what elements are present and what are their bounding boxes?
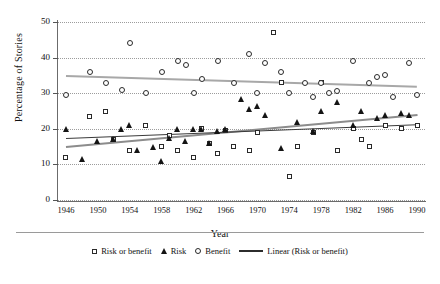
- data-point-triangle: [94, 138, 100, 144]
- data-point-square: [103, 109, 108, 114]
- data-point-circle: [382, 72, 388, 78]
- y-tick-label: 20: [41, 124, 50, 133]
- data-point-square: [127, 148, 132, 153]
- data-point-triangle: [190, 126, 196, 132]
- data-point-circle: [246, 51, 252, 57]
- data-point-triangle: [254, 103, 260, 109]
- data-point-triangle: [150, 144, 156, 150]
- data-point-triangle: [374, 115, 380, 121]
- data-point-triangle: [118, 126, 124, 132]
- data-point-square: [159, 144, 164, 149]
- gridline: [58, 164, 425, 165]
- plot-area: [58, 22, 425, 200]
- data-point-circle: [310, 94, 316, 100]
- legend-label: Risk or benefit: [101, 246, 152, 256]
- data-point-circle: [414, 92, 420, 98]
- data-point-square: [63, 155, 68, 160]
- data-point-square: [287, 174, 292, 179]
- data-point-circle: [175, 58, 181, 64]
- y-tick-label: 0: [46, 195, 51, 204]
- chart-figure: Percentage of Stories Year 01020304050 1…: [0, 0, 440, 284]
- data-point-square: [143, 123, 148, 128]
- data-point-triangle: [262, 112, 268, 118]
- gridline: [58, 200, 425, 201]
- data-point-square: [383, 123, 388, 128]
- data-point-square: [359, 137, 364, 142]
- data-point-circle: [406, 60, 412, 66]
- data-point-square: [271, 30, 276, 35]
- data-point-triangle: [222, 126, 228, 132]
- data-point-circle: [199, 76, 205, 82]
- legend-label: Risk: [171, 246, 187, 256]
- gridline: [58, 22, 425, 23]
- chart-legend: Risk or benefitRiskBenefitLinear (Risk o…: [0, 246, 440, 256]
- data-point-triangle: [238, 96, 244, 102]
- legend-item: Risk or benefit: [92, 246, 152, 256]
- data-point-circle: [254, 90, 260, 96]
- data-point-circle: [302, 80, 308, 86]
- data-point-triangle: [350, 122, 356, 128]
- y-tick-label: 10: [41, 159, 50, 168]
- legend-divider: [16, 232, 424, 233]
- data-point-circle: [63, 92, 69, 98]
- data-point-circle: [286, 90, 292, 96]
- data-point-square: [415, 123, 420, 128]
- data-point-square: [191, 155, 196, 160]
- data-point-circle: [326, 90, 332, 96]
- legend-triangle-icon: [161, 248, 167, 254]
- data-point-triangle: [182, 138, 188, 144]
- data-point-triangle: [166, 135, 172, 141]
- data-point-triangle: [358, 108, 364, 114]
- data-point-triangle: [214, 128, 220, 134]
- data-point-triangle: [134, 147, 140, 153]
- x-tick-label: 1990: [397, 206, 437, 215]
- data-point-circle: [159, 69, 165, 75]
- data-point-triangle: [63, 126, 69, 132]
- gridline: [58, 58, 425, 59]
- data-point-triangle: [246, 106, 252, 112]
- data-point-circle: [119, 87, 125, 93]
- y-tick-label: 40: [41, 53, 50, 62]
- data-point-square: [335, 148, 340, 153]
- x-axis-title: Year: [0, 228, 440, 239]
- data-point-circle: [318, 80, 324, 86]
- y-tick-label: 50: [41, 17, 50, 26]
- data-point-square: [399, 126, 404, 131]
- data-point-circle: [87, 69, 93, 75]
- data-point-square: [215, 151, 220, 156]
- legend-line-icon: [239, 250, 263, 251]
- data-point-circle: [191, 90, 197, 96]
- data-point-triangle: [294, 119, 300, 125]
- y-tick-label: 30: [41, 88, 50, 97]
- data-point-triangle: [158, 158, 164, 164]
- data-point-circle: [231, 80, 237, 86]
- data-point-triangle: [110, 136, 116, 142]
- data-point-triangle: [310, 128, 316, 134]
- data-point-triangle: [318, 108, 324, 114]
- legend-circle-icon: [195, 248, 201, 254]
- data-point-circle: [390, 94, 396, 100]
- trendline: [66, 75, 417, 87]
- data-point-circle: [366, 80, 372, 86]
- data-point-square: [231, 144, 236, 149]
- data-point-circle: [143, 90, 149, 96]
- data-point-triangle: [406, 112, 412, 118]
- data-point-circle: [103, 80, 109, 86]
- data-point-triangle: [398, 110, 404, 116]
- data-point-triangle: [278, 145, 284, 151]
- data-point-square: [367, 144, 372, 149]
- data-point-square: [175, 148, 180, 153]
- legend-label: Linear (Risk or benefit): [267, 246, 347, 256]
- gridline: [58, 93, 425, 94]
- data-point-square: [295, 144, 300, 149]
- data-point-circle: [278, 69, 284, 75]
- data-point-circle: [183, 62, 189, 68]
- data-point-triangle: [382, 112, 388, 118]
- legend-label: Benefit: [205, 246, 230, 256]
- legend-item: Benefit: [195, 246, 230, 256]
- data-point-triangle: [79, 156, 85, 162]
- x-axis-line: [57, 201, 426, 202]
- data-point-triangle: [334, 99, 340, 105]
- legend-item: Linear (Risk or benefit): [239, 246, 347, 256]
- data-point-circle: [350, 58, 356, 64]
